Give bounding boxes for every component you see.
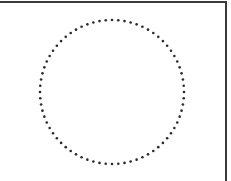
circle-dot (39, 97, 42, 100)
circle-dot (75, 153, 78, 156)
circle-dot (92, 21, 95, 24)
circle-dot (45, 121, 48, 124)
circle-dot (86, 158, 89, 161)
circle-dot (60, 40, 63, 43)
circle-dot (183, 91, 186, 94)
circle-dot (39, 91, 42, 94)
circle-dot (86, 23, 89, 26)
circle-dot (64, 36, 67, 39)
circle-dot (39, 84, 42, 87)
circle-dot (173, 127, 176, 130)
circle-dot (162, 40, 165, 43)
circle-dot (117, 162, 120, 165)
circle-dot (176, 60, 179, 63)
circle-dot (80, 156, 83, 159)
circle-dot (152, 32, 155, 35)
circle-dot (180, 109, 183, 112)
circle-dot (135, 23, 138, 26)
diagram-canvas (0, 0, 231, 181)
circle-dot (69, 150, 72, 153)
circle-dot (52, 132, 55, 135)
circle-dot (52, 49, 55, 52)
circle-dot (60, 142, 63, 145)
circle-dot (178, 66, 181, 69)
circle-dot (129, 160, 132, 163)
circle-dot (98, 20, 101, 23)
circle-dot (157, 36, 160, 39)
circle-dot (123, 162, 126, 165)
circle-dot (141, 156, 144, 159)
circle-dot (182, 84, 185, 87)
circle-dot (129, 21, 132, 24)
circle-dot (180, 72, 183, 75)
circle-dot (40, 78, 43, 81)
dotted-circle (39, 19, 186, 166)
circle-dot (182, 97, 185, 100)
circle-dot (117, 19, 120, 22)
circle-dot (43, 66, 46, 69)
circle-dot (45, 60, 48, 63)
circle-dot (111, 19, 114, 22)
circle-dot (135, 158, 138, 161)
circle-dot (41, 109, 44, 112)
circle-dot (182, 103, 185, 106)
circle-dot (104, 162, 107, 165)
circle-dot (152, 150, 155, 153)
circle-dot (69, 32, 72, 35)
circle-dot (173, 55, 176, 58)
circle-dot (111, 163, 114, 166)
circle-dot (141, 25, 144, 28)
circle-dot (178, 115, 181, 118)
circle-dot (123, 20, 126, 23)
circle-dot (147, 28, 150, 31)
circle-dot (162, 142, 165, 145)
circle-dot (182, 78, 185, 81)
circle-dot (56, 44, 59, 47)
circle-dot (166, 44, 169, 47)
circle-dot (56, 137, 59, 140)
circle-dot (170, 132, 173, 135)
circle-dot (75, 28, 78, 31)
circle-dot (92, 160, 95, 163)
circle-dot (64, 146, 67, 149)
circle-dot (48, 55, 51, 58)
circle-dot (80, 25, 83, 28)
circle-dot (170, 49, 173, 52)
circle-dot (98, 162, 101, 165)
circle-dot (104, 19, 107, 22)
circle-dot (41, 72, 44, 75)
circle-dot (176, 121, 179, 124)
circle-dot (166, 137, 169, 140)
circle-dot (40, 103, 43, 106)
circle-dot (48, 127, 51, 130)
circle-dot (43, 115, 46, 118)
circle-dot (157, 146, 160, 149)
circle-dot (147, 153, 150, 156)
